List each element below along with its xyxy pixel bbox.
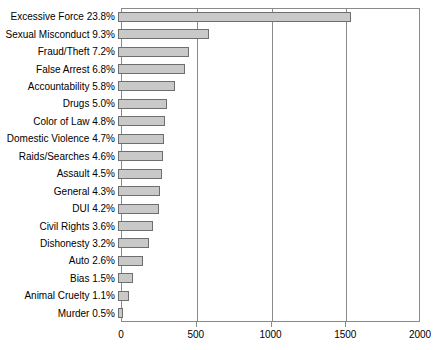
bar-row: Civil Rights 3.6%: [0, 217, 438, 234]
bar[interactable]: [118, 256, 143, 266]
bar-row: Raids/Searches 4.6%: [0, 148, 438, 165]
x-tick-label-2000: 2000: [409, 329, 431, 341]
bar[interactable]: [118, 47, 189, 57]
bar[interactable]: [118, 204, 159, 214]
bar-row: False Arrest 6.8%: [0, 60, 438, 77]
x-tick-mark-1000: [271, 322, 272, 327]
category-label: Domestic Violence 4.7%: [0, 133, 118, 144]
bar-row: Bias 1.5%: [0, 270, 438, 287]
bar-row: Color of Law 4.8%: [0, 113, 438, 130]
bar[interactable]: [118, 151, 163, 161]
category-label: Auto 2.6%: [0, 255, 118, 266]
bar-cell: [118, 43, 438, 60]
bar-row: Sexual Misconduct 9.3%: [0, 25, 438, 42]
category-label: Accountability 5.8%: [0, 81, 118, 92]
x-axis: 0500100015002000: [121, 322, 420, 348]
bar-row: Drugs 5.0%: [0, 95, 438, 112]
bar-cell: [118, 287, 438, 304]
bar[interactable]: [118, 273, 133, 283]
x-tick-mark-500: [196, 322, 197, 327]
bar-row: Fraud/Theft 7.2%: [0, 43, 438, 60]
bar-cell: [118, 95, 438, 112]
bar-row: General 4.3%: [0, 182, 438, 199]
bar-row: Murder 0.5%: [0, 305, 438, 322]
bar-rows: Excessive Force 23.8%Sexual Misconduct 9…: [0, 8, 438, 322]
bar-cell: [118, 25, 438, 42]
bar-row: Animal Cruelty 1.1%: [0, 287, 438, 304]
bar-cell: [118, 305, 438, 322]
category-label: Excessive Force 23.8%: [0, 11, 118, 22]
bar-cell: [118, 78, 438, 95]
bar-row: Domestic Violence 4.7%: [0, 130, 438, 147]
bar[interactable]: [118, 12, 351, 22]
bar[interactable]: [118, 308, 123, 318]
category-label: Color of Law 4.8%: [0, 116, 118, 127]
category-label: Sexual Misconduct 9.3%: [0, 29, 118, 40]
category-label: Fraud/Theft 7.2%: [0, 46, 118, 57]
bar-cell: [118, 148, 438, 165]
category-label: Animal Cruelty 1.1%: [0, 290, 118, 301]
bar-cell: [118, 217, 438, 234]
bar[interactable]: [118, 81, 175, 91]
bar[interactable]: [118, 238, 149, 248]
bar[interactable]: [118, 291, 129, 301]
bar[interactable]: [118, 134, 164, 144]
bar-cell: [118, 252, 438, 269]
category-label: Drugs 5.0%: [0, 98, 118, 109]
category-label: Bias 1.5%: [0, 273, 118, 284]
bar[interactable]: [118, 29, 209, 39]
bar-cell: [118, 200, 438, 217]
bar[interactable]: [118, 221, 153, 231]
category-label: General 4.3%: [0, 186, 118, 197]
bar[interactable]: [118, 99, 167, 109]
category-label: Civil Rights 3.6%: [0, 221, 118, 232]
x-tick-label-1000: 1000: [259, 329, 281, 341]
category-label: Assault 4.5%: [0, 168, 118, 179]
bar-cell: [118, 165, 438, 182]
category-label: Raids/Searches 4.6%: [0, 151, 118, 162]
category-label: DUI 4.2%: [0, 203, 118, 214]
bar[interactable]: [118, 64, 185, 74]
bar-cell: [118, 270, 438, 287]
bar-row: Auto 2.6%: [0, 252, 438, 269]
bar-cell: [118, 8, 438, 25]
bar-row: Assault 4.5%: [0, 165, 438, 182]
bar-cell: [118, 130, 438, 147]
bar-row: Accountability 5.8%: [0, 78, 438, 95]
x-tick-label-500: 500: [187, 329, 204, 341]
bar-cell: [118, 235, 438, 252]
x-tick-label-1500: 1500: [334, 329, 356, 341]
bar-cell: [118, 60, 438, 77]
bar-chart: Excessive Force 23.8%Sexual Misconduct 9…: [0, 0, 438, 350]
x-tick-label-0: 0: [118, 329, 124, 341]
x-tick-mark-1500: [345, 322, 346, 327]
category-label: Dishonesty 3.2%: [0, 238, 118, 249]
bar[interactable]: [118, 186, 160, 196]
bar-row: Dishonesty 3.2%: [0, 235, 438, 252]
category-label: False Arrest 6.8%: [0, 64, 118, 75]
bar-row: Excessive Force 23.8%: [0, 8, 438, 25]
bar-cell: [118, 182, 438, 199]
bar[interactable]: [118, 116, 165, 126]
bar[interactable]: [118, 169, 162, 179]
bar-cell: [118, 113, 438, 130]
bar-row: DUI 4.2%: [0, 200, 438, 217]
category-label: Murder 0.5%: [0, 308, 118, 319]
